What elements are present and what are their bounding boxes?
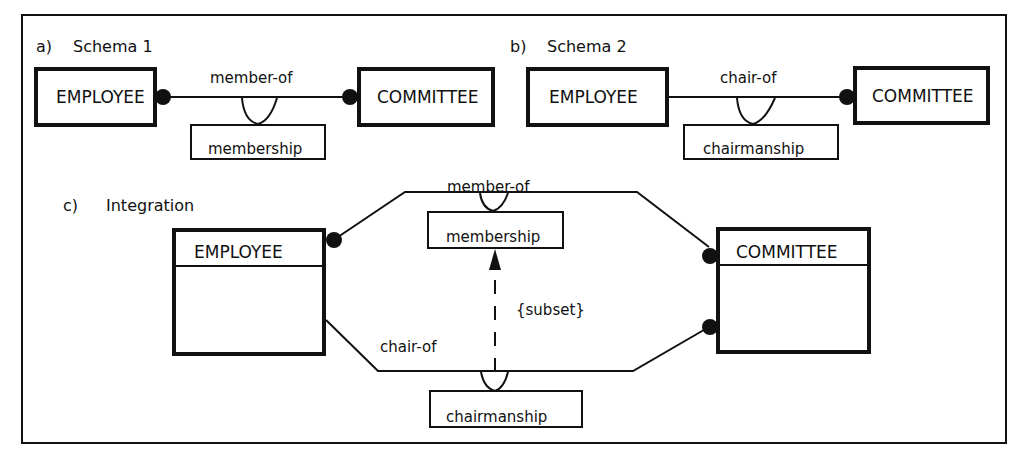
panel-c-lower-relationship-label: chair-of — [380, 338, 437, 356]
panel-c-employee-label: EMPLOYEE — [194, 242, 283, 262]
association-connector-icon — [242, 98, 277, 124]
panel-c-marker: c) — [63, 196, 78, 215]
panel-b-chairmanship-label: chairmanship — [703, 140, 804, 158]
many-multiplicity-dot-icon — [342, 89, 358, 105]
panel-c-chairmanship-label: chairmanship — [446, 408, 547, 426]
diagram-canvas: a) Schema 1 member-of EMPLOYEE COMMITTEE… — [0, 0, 1014, 450]
panel-b-title: Schema 2 — [547, 37, 627, 56]
panel-a-committee-label: COMMITTEE — [377, 87, 479, 107]
association-connector-icon — [737, 98, 775, 124]
association-connector-icon — [481, 372, 508, 391]
panel-a-schema-1: a) Schema 1 member-of EMPLOYEE COMMITTEE… — [36, 37, 493, 159]
panel-b-committee-label: COMMITTEE — [872, 86, 974, 106]
panel-a-employee-label: EMPLOYEE — [56, 87, 145, 107]
panel-c-constraint-label: {subset} — [516, 301, 585, 319]
panel-a-relationship-label: member-of — [210, 69, 293, 87]
panel-c-committee-label: COMMITTEE — [736, 242, 838, 262]
panel-b-relationship-label: chair-of — [720, 69, 777, 87]
many-multiplicity-dot-icon — [326, 232, 342, 248]
panel-a-membership-label: membership — [208, 140, 302, 158]
panel-c-title: Integration — [106, 196, 194, 215]
many-multiplicity-dot-icon — [155, 89, 171, 105]
panel-a-marker: a) — [36, 37, 52, 56]
panel-c-membership-label: membership — [446, 228, 540, 246]
panel-b-employee-label: EMPLOYEE — [549, 87, 638, 107]
many-multiplicity-dot-icon — [702, 248, 718, 264]
panel-a-title: Schema 1 — [73, 37, 153, 56]
panel-c-upper-relationship-label: member-of — [447, 178, 530, 196]
arrowhead-up-icon — [489, 249, 501, 270]
many-multiplicity-dot-icon — [702, 319, 718, 335]
many-multiplicity-dot-icon — [839, 89, 855, 105]
panel-c-integration: c) Integration member-of chair-of {subse… — [63, 178, 869, 427]
panel-b-marker: b) — [510, 37, 526, 56]
panel-b-schema-2: b) Schema 2 chair-of EMPLOYEE COMMITTEE … — [510, 37, 988, 159]
